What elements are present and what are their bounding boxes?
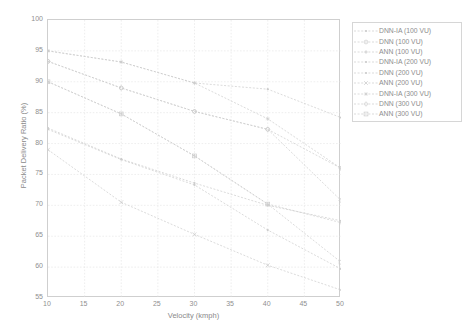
legend-item[interactable]: DNN (300 VU) [353, 99, 461, 109]
legend-item-label: DNN-IA (100 VU) [379, 26, 431, 36]
legend-marker-dot-icon [353, 68, 379, 78]
legend-item-label: DNN (100 VU) [379, 37, 423, 47]
legend-marker-star-icon [353, 89, 379, 99]
legend-item[interactable]: DNN (200 VU) [353, 68, 461, 78]
x-tick-label: 30 [179, 300, 209, 308]
legend-item[interactable]: ANN (100 VU) [353, 47, 461, 57]
legend-item-label: ANN (100 VU) [379, 47, 422, 57]
x-tick-label: 25 [142, 300, 172, 308]
legend-item-label: DNN (300 VU) [379, 99, 423, 109]
legend-marker-square-icon [353, 109, 379, 119]
x-tick-label: 20 [105, 300, 135, 308]
legend-item-label: ANN (200 VU) [379, 78, 422, 88]
legend-marker-diamond-icon [353, 99, 379, 109]
legend-marker-plus-icon [353, 47, 379, 57]
chart-figure: Packet Delivery Ratio (%) 55606570758085… [0, 0, 467, 333]
x-tick-label: 45 [288, 300, 318, 308]
legend-item[interactable]: DNN (100 VU) [353, 36, 461, 46]
legend-item[interactable]: DNN-IA (300 VU) [353, 88, 461, 98]
legend-item-label: DNN (200 VU) [379, 68, 423, 78]
legend-item-label: DNN-IA (300 VU) [379, 89, 431, 99]
x-axis-title: Velocity (kmph) [47, 311, 340, 320]
x-tick-label: 35 [215, 300, 245, 308]
x-tick-label: 10 [32, 300, 62, 308]
x-tick-label: 50 [325, 300, 355, 308]
legend-item-label: DNN-IA (200 VU) [379, 57, 431, 67]
legend-item-label: ANN (300 VU) [379, 109, 422, 119]
legend-item[interactable]: DNN-IA (100 VU) [353, 26, 461, 36]
x-tick-label: 15 [69, 300, 99, 308]
legend-item[interactable]: ANN (300 VU) [353, 109, 461, 119]
legend-item[interactable]: ANN (200 VU) [353, 78, 461, 88]
x-tick-label: 40 [252, 300, 282, 308]
legend-marker-x-icon [353, 78, 379, 88]
legend-marker-circle-icon [353, 37, 379, 47]
legend-marker-dot-icon [353, 57, 379, 67]
legend: DNN-IA (100 VU) DNN (100 VU) ANN (100 VU… [352, 22, 462, 122]
legend-item[interactable]: DNN-IA (200 VU) [353, 57, 461, 67]
legend-marker-dot-icon [353, 26, 379, 36]
